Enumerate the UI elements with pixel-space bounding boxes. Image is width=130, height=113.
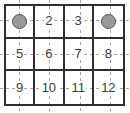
grid-cell[interactable]: 3 — [65, 6, 94, 39]
cell-number: 6 — [44, 48, 53, 60]
counter-circle-icon[interactable] — [101, 14, 116, 29]
cell-number: 10 — [41, 82, 57, 94]
grid-cell[interactable]: 11 — [65, 71, 94, 104]
cell-number: 9 — [15, 82, 24, 94]
board: 2356789101112 — [4, 4, 125, 106]
grid-cell[interactable] — [6, 6, 35, 39]
grid-cell[interactable]: 5 — [6, 39, 35, 72]
grid-cell[interactable]: 9 — [6, 71, 35, 104]
cell-number: 3 — [74, 15, 83, 27]
cell-number: 12 — [100, 82, 116, 94]
grid-cell[interactable]: 6 — [35, 39, 64, 72]
grid-cell[interactable]: 10 — [35, 71, 64, 104]
counter-circle-icon[interactable] — [12, 14, 27, 29]
cell-number: 11 — [70, 82, 86, 94]
grid-cell[interactable]: 7 — [65, 39, 94, 72]
cell-number: 7 — [74, 48, 83, 60]
cell-number: 8 — [104, 48, 113, 60]
cell-number: 5 — [15, 48, 24, 60]
grid-cell[interactable] — [94, 6, 123, 39]
grid-cell[interactable]: 2 — [35, 6, 64, 39]
grid-cell[interactable]: 8 — [94, 39, 123, 72]
number-grid-stage: 2356789101112 — [0, 0, 130, 113]
cell-number: 2 — [44, 15, 53, 27]
grid-cell[interactable]: 12 — [94, 71, 123, 104]
